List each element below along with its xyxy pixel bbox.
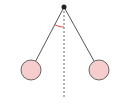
right-bob (89, 60, 109, 80)
pivot-point (62, 5, 67, 10)
right-string (64, 7, 94, 61)
pendulum-diagram (0, 0, 114, 104)
left-string (36, 7, 64, 61)
left-bob (21, 60, 41, 80)
angle-arc (55, 25, 64, 27)
